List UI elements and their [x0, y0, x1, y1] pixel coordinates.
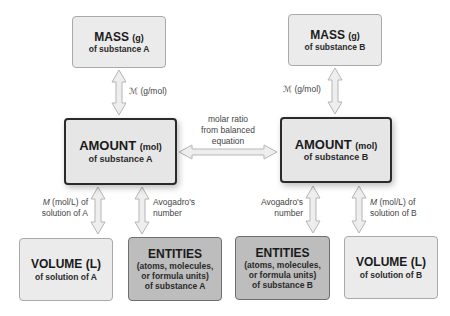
amount-a-sub: of substance A — [88, 154, 152, 165]
mass-b-sub: of substance B — [305, 42, 366, 52]
amount-a-box: AMOUNT (mol) of substance A — [64, 118, 177, 185]
mass-a-sub: of substance A — [89, 44, 150, 54]
mass-a-title: MASS (g) — [94, 30, 144, 44]
volume-a-sub: of solution of A — [35, 272, 97, 282]
molarity-b-label: M (mol/L) of solution of B — [370, 197, 417, 219]
entities-a-line1: (atoms, molecules, — [137, 261, 214, 271]
molar-mass-b-label: ℳ (g/mol) — [283, 84, 321, 95]
amount-b-box: AMOUNT (mol) of substance B — [280, 117, 392, 183]
volume-a-title: VOLUME (L) — [31, 257, 101, 271]
amount-b-sub: of substance B — [304, 152, 369, 163]
double-arrow-amount-entities-a — [135, 187, 149, 234]
avogadro-a-label: Avogadro's number — [153, 197, 195, 219]
entities-b-line1: (atoms, molecules, — [244, 260, 321, 270]
mass-b-title: MASS (g) — [310, 28, 360, 42]
entities-b-line2: or formula units) — [249, 270, 317, 280]
double-arrow-amount-entities-b — [306, 186, 320, 233]
entities-a-line2: or formula units) — [141, 271, 209, 281]
entities-b-box: ENTITIES (atoms, molecules, or formula u… — [235, 236, 330, 300]
volume-b-sub: of solution of B — [360, 270, 422, 280]
double-arrow-mass-amount-b — [328, 68, 342, 114]
molarity-a-label: M (mol/L) of solution of A — [30, 197, 88, 219]
double-arrow-mass-amount-a — [112, 70, 126, 115]
molar-mass-a-label: ℳ (g/mol) — [129, 86, 167, 97]
amount-b-title: AMOUNT (mol) — [295, 137, 378, 153]
volume-a-box: VOLUME (L) of solution of A — [19, 238, 113, 301]
volume-b-title: VOLUME (L) — [356, 255, 426, 269]
volume-b-box: VOLUME (L) of solution of B — [344, 236, 438, 299]
entities-a-sub: of substance A — [145, 281, 206, 291]
mass-a-box: MASS (g) of substance A — [72, 16, 166, 68]
entities-b-title: ENTITIES — [255, 246, 309, 260]
entities-a-title: ENTITIES — [148, 247, 202, 261]
amount-a-title: AMOUNT (mol) — [79, 138, 162, 154]
double-arrow-amount-volume-a — [91, 187, 105, 234]
mass-b-box: MASS (g) of substance B — [288, 14, 382, 66]
entities-a-box: ENTITIES (atoms, molecules, or formula u… — [128, 237, 222, 301]
entities-b-sub: of substance B — [252, 280, 313, 290]
molar-ratio-label: molar ratio from balanced equation — [190, 114, 266, 147]
avogadro-b-label: Avogadro's number — [251, 197, 303, 219]
double-arrow-amount-volume-b — [352, 186, 366, 233]
